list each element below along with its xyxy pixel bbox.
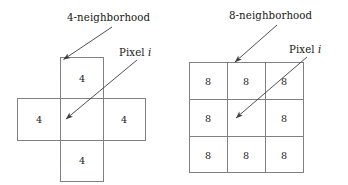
right-neighborhood-arrow	[235, 25, 277, 62]
right-cell-r2c0: 8	[189, 151, 227, 161]
left-pixel-arrow	[66, 60, 137, 119]
right-annotation-arrows	[235, 25, 307, 118]
right-pixel-caption: Pixel i	[289, 45, 321, 55]
right-cell-r2c1: 8	[227, 151, 265, 161]
right-cell-r0c2: 8	[265, 77, 303, 87]
left-cell-right: 4	[102, 115, 146, 125]
right-cell-r0c0: 8	[189, 77, 227, 87]
right-pixel-caption-prefix: Pixel	[289, 44, 318, 55]
right-cell-r2c2: 8	[265, 151, 303, 161]
right-pixel-arrow	[236, 57, 307, 118]
left-pixel-caption-symbol: i	[148, 47, 151, 58]
left-pixel-caption: Pixel i	[119, 48, 151, 58]
left-neighborhood-caption: 4-neighborhood	[67, 13, 150, 23]
left-annotation-arrows	[64, 27, 138, 119]
neighborhood-figure: 4-neighborhood Pixel i 8-neighborhood Pi…	[0, 0, 348, 185]
left-cell-top: 4	[60, 74, 104, 84]
left-neighborhood-arrow	[64, 27, 113, 60]
right-cell-r1c0: 8	[189, 114, 227, 124]
right-cell-r0c1: 8	[227, 77, 265, 87]
left-pixel-caption-prefix: Pixel	[119, 47, 148, 58]
right-neighborhood-caption: 8-neighborhood	[229, 11, 312, 21]
right-cell-r1c2: 8	[265, 114, 303, 124]
right-pixel-caption-symbol: i	[318, 44, 321, 55]
left-cell-left: 4	[17, 115, 61, 125]
left-cell-bottom: 4	[60, 156, 104, 166]
